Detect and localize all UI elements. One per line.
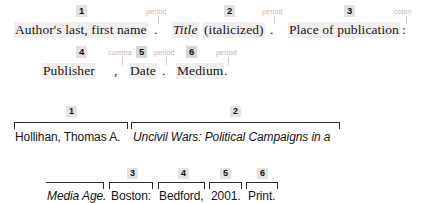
example-span-bracket-5	[209, 182, 242, 189]
example-span-bracket-6	[246, 182, 278, 189]
example-part-number-6: 6	[257, 168, 268, 179]
punctuation-label-period-2: period	[262, 8, 283, 15]
punctuation-label-period-4: period	[216, 49, 237, 56]
punctuation-tick-3	[406, 16, 407, 24]
mla-citation-diagram: 1 period 2 period 3 colon Author's last,…	[0, 0, 425, 203]
punctuation-tick-2	[274, 16, 275, 24]
example-text-publisher: Bedford,	[159, 189, 204, 203]
template-slot-number-3: 3	[344, 5, 355, 17]
template-phrase-place: Place of publication	[288, 22, 400, 38]
example-part-number-2: 2	[230, 106, 241, 117]
punctuation-label-comma: comma	[108, 49, 132, 56]
example-text-title: Uncivil Wars: Political Campaigns in a	[133, 130, 330, 144]
punctuation-label-period-3: period	[154, 49, 175, 56]
template-slot-number-4: 4	[76, 46, 87, 58]
template-phrase-medium: Medium	[176, 63, 224, 79]
example-text-title-cont: Media Age.	[47, 189, 106, 203]
example-text-date: 2001.	[211, 189, 241, 203]
example-part-number-3: 3	[127, 168, 138, 179]
template-separator-comma: ,	[114, 63, 117, 79]
example-text-medium: Print.	[248, 189, 275, 203]
template-separator-period-2: .	[270, 22, 273, 38]
template-separator-period-3: .	[162, 63, 165, 79]
example-span-bracket-title-cont	[46, 182, 104, 189]
example-span-bracket-1	[14, 122, 128, 129]
punctuation-label-colon: colon	[394, 8, 412, 15]
example-span-bracket-2	[131, 122, 340, 129]
example-text-place: Boston:	[111, 189, 151, 203]
template-separator-period-1: .	[154, 22, 157, 38]
example-part-number-5: 5	[220, 168, 231, 179]
template-separator-period-4: .	[224, 63, 227, 79]
template-slot-number-5: 5	[136, 46, 147, 58]
template-slot-number-6: 6	[186, 46, 197, 58]
template-separator-colon: :	[402, 22, 406, 38]
example-part-number-4: 4	[178, 168, 189, 179]
template-slot-number-2: 2	[224, 5, 235, 17]
template-phrase-date: Date	[129, 63, 157, 79]
template-phrase-author: Author's last, first name	[14, 22, 148, 38]
punctuation-tick-6	[228, 57, 229, 65]
template-slot-number-1: 1	[76, 5, 87, 17]
template-phrase-publisher: Publisher	[42, 63, 96, 79]
example-text-author: Hollihan, Thomas A.	[15, 130, 120, 144]
punctuation-tick-4	[122, 57, 123, 65]
template-phrase-title-suffix: (italicized)	[203, 22, 265, 38]
punctuation-tick-5	[166, 57, 167, 65]
example-span-bracket-4	[158, 182, 205, 189]
example-span-bracket-3	[109, 182, 153, 189]
example-part-number-1: 1	[66, 106, 77, 117]
punctuation-tick-1	[158, 16, 159, 24]
template-phrase-title: Title	[172, 22, 199, 38]
punctuation-label-period-1: period	[146, 8, 167, 15]
